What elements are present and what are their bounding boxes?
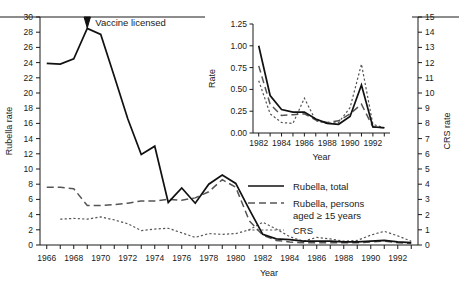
x-axis-tick-label: 1974	[145, 253, 164, 263]
legend-label-rubella-15plus-line1: Rubella, persons	[293, 198, 365, 209]
vaccine-licensed-annotation: Vaccine licensed	[95, 17, 166, 28]
left-axis-tick-label: 4	[28, 210, 33, 220]
left-axis-tick-label: 0	[28, 240, 33, 250]
right-axis-tick-label: 11	[425, 73, 434, 83]
left-axis-tick-label: 14	[24, 134, 34, 144]
left-axis-tick-label: 2	[28, 225, 33, 235]
legend-label-rubella-total: Rubella, total	[293, 181, 348, 192]
right-axis-title: CRS rate	[442, 112, 452, 149]
inset-x-tick-label: 1992	[363, 138, 382, 148]
inset-y-tick-label: 0.75	[230, 63, 247, 73]
x-axis-tick-label: 1984	[280, 253, 299, 263]
right-axis-tick-label: 4	[425, 179, 430, 189]
right-axis-tick-label: 6	[425, 149, 430, 159]
left-axis-tick-label: 26	[24, 42, 34, 52]
right-axis-tick-label: 7	[425, 134, 430, 144]
legend-label-rubella-15plus-line2: aged ≥ 15 years	[293, 210, 361, 221]
x-axis-tick-label: 1972	[118, 253, 137, 263]
inset-y-tick-label: 1.00	[230, 41, 247, 51]
x-axis-tick-label: 1982	[253, 253, 272, 263]
x-axis-tick-label: 1976	[172, 253, 191, 263]
inset-x-tick-label: 1982	[249, 138, 268, 148]
right-axis-tick-label: 9	[425, 103, 430, 113]
left-axis-tick-label: 28	[24, 27, 34, 37]
series-crs-line	[60, 217, 411, 241]
x-axis-tick-label: 1970	[91, 253, 110, 263]
inset-x-axis-title: Year	[312, 152, 330, 162]
left-axis-tick-label: 10	[24, 164, 34, 174]
right-axis-tick-label: 15	[425, 12, 435, 22]
left-axis-tick-label: 12	[24, 149, 34, 159]
left-axis-tick-label: 30	[24, 12, 34, 22]
right-axis-tick-label: 5	[425, 164, 430, 174]
inset-y-axis-title: Rate	[207, 69, 217, 88]
inset-x-tick-label: 1988	[318, 138, 337, 148]
left-axis-title: Rubella rate	[4, 107, 14, 156]
legend-label-crs: CRS	[293, 225, 313, 236]
right-axis-tick-label: 10	[425, 88, 435, 98]
x-axis-title: Year	[260, 268, 278, 278]
inset-y-tick-label: 0.50	[230, 84, 247, 94]
right-axis-tick-label: 2	[425, 210, 430, 220]
right-axis-tick-label: 1	[425, 225, 430, 235]
left-axis-tick-label: 16	[24, 118, 34, 128]
left-axis-tick-label: 18	[24, 103, 34, 113]
left-axis-tick-label: 24	[24, 58, 34, 68]
left-axis-tick-label: 8	[28, 179, 33, 189]
x-axis-tick-label: 1988	[334, 253, 353, 263]
right-axis-tick-label: 3	[425, 194, 430, 204]
left-axis-tick-label: 20	[24, 88, 34, 98]
right-axis-tick-label: 8	[425, 118, 430, 128]
inset-x-tick-label: 1984	[272, 138, 291, 148]
inset-x-tick-label: 1990	[341, 138, 360, 148]
chart-canvas: 0246810121416182022242628300123456789101…	[0, 0, 459, 290]
inset-y-tick-label: 0.25	[230, 106, 247, 116]
vaccine-licensed-arrow-icon	[84, 17, 90, 28]
inset-x-tick-label: 1986	[295, 138, 314, 148]
inset-y-tick-label: 1.25	[230, 19, 247, 29]
right-axis-tick-label: 14	[425, 27, 435, 37]
x-axis-tick-label: 1992	[388, 253, 407, 263]
x-axis-tick-label: 1990	[361, 253, 380, 263]
x-axis-tick-label: 1986	[307, 253, 326, 263]
inset-y-tick-label: 0.00	[230, 128, 247, 138]
rubella-crs-figure: 0246810121416182022242628300123456789101…	[0, 0, 459, 290]
left-axis-tick-label: 6	[28, 194, 33, 204]
x-axis-tick-label: 1966	[37, 253, 56, 263]
right-axis-tick-label: 0	[425, 240, 430, 250]
right-axis-tick-label: 13	[425, 42, 435, 52]
left-axis-tick-label: 22	[24, 73, 34, 83]
right-axis-tick-label: 12	[425, 58, 435, 68]
x-axis-tick-label: 1978	[199, 253, 218, 263]
x-axis-tick-label: 1968	[64, 253, 83, 263]
x-axis-tick-label: 1980	[226, 253, 245, 263]
